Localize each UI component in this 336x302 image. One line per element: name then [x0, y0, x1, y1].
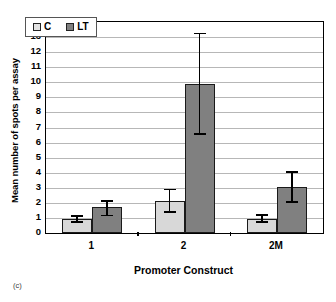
- legend-label-c: C: [44, 22, 51, 32]
- y-axis-title: Mean number of spots per assay: [9, 26, 20, 236]
- x-tick-label-1: 1: [88, 240, 94, 251]
- plot-area: [45, 21, 324, 234]
- y-tick-label: 5: [22, 152, 41, 162]
- figure-panel: Mean number of spots per assay 012345678…: [0, 0, 336, 302]
- error-bar-cap-lower: [286, 201, 298, 203]
- error-bar-cap-lower: [101, 215, 113, 217]
- y-tick-label: 9: [22, 91, 41, 101]
- y-tick-label: 12: [22, 46, 41, 56]
- x-tick-label-2M: 2M: [269, 240, 283, 251]
- error-bar-cap-upper: [101, 200, 113, 202]
- error-bar-cap-lower: [256, 221, 268, 223]
- x-axis-title: Promoter Construct: [45, 264, 322, 276]
- legend-swatch-lt-icon: [66, 23, 74, 31]
- y-tick-label: 0: [22, 227, 41, 237]
- error-bar-cap-lower: [71, 221, 83, 223]
- chart-legend: C LT: [25, 17, 97, 37]
- error-bar-cap-upper: [164, 189, 176, 191]
- x-axis-tick-labels: 122M: [45, 240, 322, 254]
- panel-label: (c): [13, 281, 22, 290]
- y-tick-label: 10: [22, 76, 41, 86]
- y-tick-label: 6: [22, 137, 41, 147]
- error-bar-cap-upper: [286, 171, 298, 173]
- error-bar-cap-lower: [164, 211, 176, 213]
- y-axis-tick-labels: 01234567891011121314: [22, 15, 41, 239]
- error-bar-line: [199, 33, 201, 135]
- legend-swatch-c-icon: [33, 23, 41, 31]
- y-tick-label: 3: [22, 182, 41, 192]
- error-bar-cap-upper: [71, 215, 83, 217]
- error-bar-line: [291, 171, 293, 203]
- y-tick-label: 2: [22, 197, 41, 207]
- legend-entry-c: C: [33, 22, 51, 32]
- legend-entry-lt: LT: [66, 22, 88, 32]
- y-tick-label: 7: [22, 122, 41, 132]
- y-tick-label: 11: [22, 61, 41, 71]
- x-axis-tick-mark: [137, 232, 138, 236]
- y-tick-label: 1: [22, 212, 41, 222]
- error-bar-line: [169, 189, 171, 213]
- x-tick-label-2: 2: [181, 240, 187, 251]
- bars-layer: [46, 22, 323, 233]
- error-bar-cap-upper: [256, 214, 268, 216]
- error-bar-cap-upper: [194, 33, 206, 35]
- x-axis-tick-mark: [230, 232, 231, 236]
- y-tick-label: 8: [22, 106, 41, 116]
- y-tick-label: 4: [22, 167, 41, 177]
- error-bar-cap-lower: [194, 133, 206, 135]
- legend-label-lt: LT: [77, 22, 88, 32]
